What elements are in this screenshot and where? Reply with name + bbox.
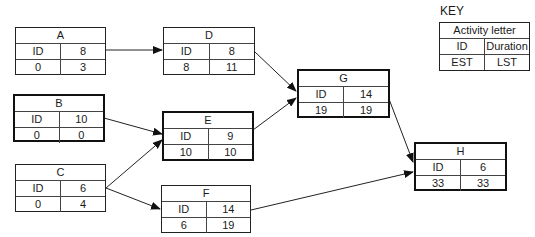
duration: 10	[59, 112, 104, 127]
key-heading: KEY	[440, 4, 464, 18]
est: 19	[299, 103, 343, 118]
lst: 33	[460, 176, 505, 191]
activity-letter: D	[164, 28, 254, 44]
lst: 0	[59, 128, 104, 143]
est: 33	[416, 176, 460, 191]
activity-letter: E	[164, 113, 252, 129]
id-label: ID	[164, 44, 209, 59]
edge-f-h	[251, 172, 413, 210]
id-label: ID	[16, 181, 60, 196]
key-id: ID	[440, 39, 484, 54]
id-label: ID	[16, 44, 60, 59]
key-activity-letter: Activity letter	[440, 23, 529, 39]
activity-node-d: D ID 8 8 11	[163, 27, 255, 75]
duration: 14	[206, 202, 251, 217]
edge-c-f	[106, 188, 160, 209]
activity-letter: B	[15, 96, 103, 112]
activity-letter: H	[416, 144, 505, 160]
activity-node-f: F ID 14 6 19	[161, 185, 251, 233]
duration: 6	[60, 181, 105, 196]
est: 8	[164, 60, 209, 75]
key-duration: Duration	[484, 39, 529, 54]
lst: 11	[209, 60, 255, 75]
id-label: ID	[162, 202, 206, 217]
id-label: ID	[15, 112, 59, 127]
activity-node-b: B ID 10 0 0	[13, 94, 105, 142]
id-label: ID	[299, 87, 343, 102]
duration: 9	[208, 129, 253, 144]
est: 6	[162, 218, 206, 233]
activity-letter: C	[16, 165, 105, 181]
id-label: ID	[416, 160, 460, 175]
lst: 4	[60, 197, 105, 212]
activity-letter: A	[16, 28, 105, 44]
activity-node-a: A ID 8 0 3	[15, 27, 106, 75]
id-label: ID	[164, 129, 208, 144]
activity-node-e: E ID 9 10 10	[162, 111, 254, 161]
est: 10	[164, 145, 208, 160]
lst: 19	[343, 103, 388, 118]
activity-letter: F	[162, 186, 250, 202]
duration: 8	[209, 44, 255, 59]
key-est: EST	[440, 55, 484, 70]
lst: 3	[60, 60, 105, 75]
activity-node-g: G ID 14 19 19	[297, 69, 390, 118]
est: 0	[16, 197, 60, 212]
duration: 6	[460, 160, 505, 175]
duration: 14	[343, 87, 388, 102]
activity-node-h: H ID 6 33 33	[414, 142, 507, 191]
activity-node-c: C ID 6 0 4	[15, 164, 106, 212]
est: 0	[15, 128, 59, 143]
activity-letter: G	[299, 71, 388, 87]
edge-d-g	[255, 52, 296, 91]
key-lst: LST	[484, 55, 529, 70]
edge-e-g	[253, 98, 296, 130]
lst: 19	[206, 218, 251, 233]
edge-b-e	[104, 118, 162, 134]
edge-c-e	[106, 140, 162, 188]
est: 0	[16, 60, 60, 75]
lst: 10	[208, 145, 253, 160]
duration: 8	[60, 44, 105, 59]
edge-g-h	[389, 99, 413, 162]
key-legend: Activity letter ID Duration EST LST	[439, 22, 530, 71]
